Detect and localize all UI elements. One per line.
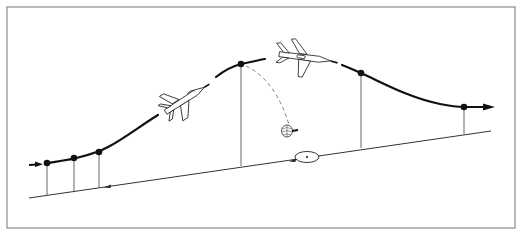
target-icon — [295, 152, 319, 163]
waypoint-dot — [238, 61, 245, 68]
waypoint-dot — [358, 70, 365, 77]
diagram-canvas — [0, 0, 522, 236]
waypoint-dot — [71, 155, 78, 162]
waypoint-dot — [461, 104, 468, 111]
aircraft-climb-icon — [154, 71, 218, 128]
entry-arrow-icon — [29, 162, 43, 168]
waypoint-dot — [96, 149, 103, 156]
parachute-icon — [282, 125, 299, 137]
diagram-frame — [7, 7, 515, 228]
waypoints — [44, 61, 468, 167]
flight-profile-diagram — [0, 0, 522, 236]
flight-path — [47, 59, 484, 163]
waypoint-dot — [44, 160, 51, 167]
ground-arrow-icon — [104, 185, 111, 189]
exit-arrow-icon — [483, 104, 495, 111]
aircraft-egress-icon — [272, 36, 340, 81]
ballistic-trajectory — [246, 66, 290, 128]
altitude-drop-lines — [47, 64, 464, 195]
ground-line — [29, 131, 491, 198]
